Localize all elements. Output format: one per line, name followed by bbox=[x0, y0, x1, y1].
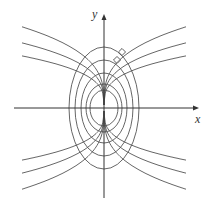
right-angle-marker-1 bbox=[118, 48, 125, 55]
x-axis-label: x bbox=[195, 113, 200, 125]
y-axis-arrowhead-icon bbox=[102, 14, 107, 20]
y-axis-label: y bbox=[92, 8, 97, 20]
orthogonal-trajectories-diagram bbox=[0, 0, 216, 209]
x-axis-arrowhead-icon bbox=[193, 106, 199, 111]
